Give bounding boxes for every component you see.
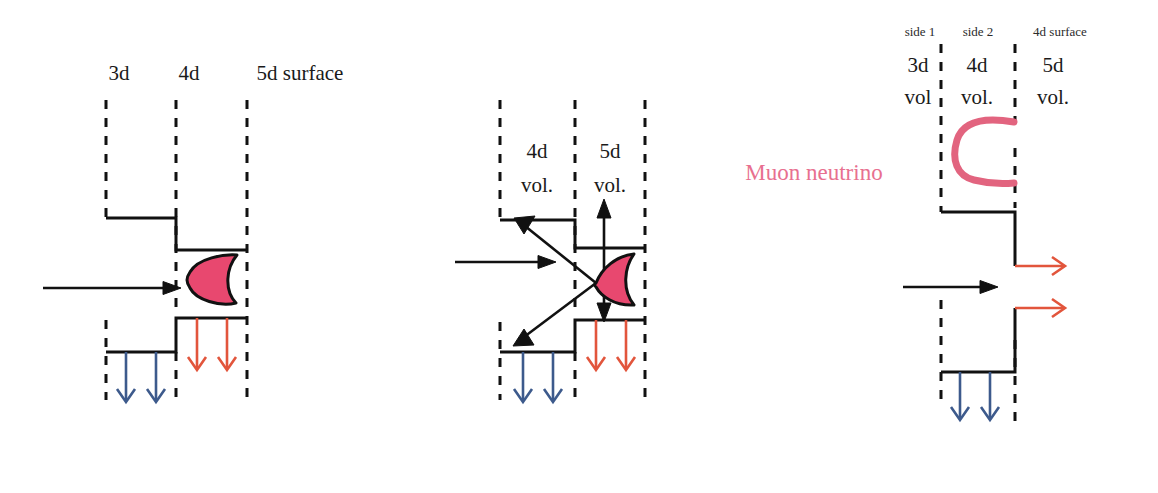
panel-middle-scatter-arrow-down-left xyxy=(513,283,596,346)
panel-middle-label-4d-line1: 4d xyxy=(527,139,549,163)
panel-middle-red-arrows xyxy=(587,320,635,370)
panel-right-label-4d-line2: vol. xyxy=(961,85,993,109)
panel-right-header-4d-surface: 4d surface xyxy=(1033,24,1087,39)
panel-right-incoming-arrow xyxy=(903,281,998,294)
panel-middle-interaction-blob xyxy=(595,254,635,305)
panel-left-red-arrows xyxy=(188,318,236,370)
panel-right-label-5d-line1: 5d xyxy=(1043,53,1065,77)
panel-middle: 4d vol. 5d vol. xyxy=(455,100,645,402)
panel-middle-label-4d-line2: vol. xyxy=(521,173,553,197)
panel-right-upper-step xyxy=(941,212,1015,266)
panel-middle-blue-arrows xyxy=(514,352,562,402)
panel-left-upper-step xyxy=(106,218,247,250)
figure-canvas: 3d 4d 5d surface xyxy=(0,0,1158,493)
panel-left-header-4d: 4d xyxy=(179,61,201,85)
panel-right-red-arrows xyxy=(1015,257,1065,317)
panel-middle-label-5d-line1: 5d xyxy=(600,139,622,163)
panel-right-header-side-2: side 2 xyxy=(963,24,994,39)
panel-right-pink-c-curve xyxy=(955,120,1014,184)
panel-middle-label-5d-line2: vol. xyxy=(594,173,626,197)
panel-left-header-3d: 3d xyxy=(109,61,131,85)
panel-left-header-5d-surface: 5d surface xyxy=(257,61,344,85)
panel-right-label-3d-line1: 3d xyxy=(908,53,930,77)
panel-right-label-4d-line1: 4d xyxy=(967,53,989,77)
figure-root: 3d 4d 5d surface xyxy=(0,0,1158,493)
muon-neutrino-annotation: Muon neutrino xyxy=(745,160,882,185)
panel-right-header-side-1: side 1 xyxy=(905,24,936,39)
panel-middle-incoming-arrow xyxy=(455,256,556,269)
panel-left-interaction-blob xyxy=(187,255,237,304)
panel-right-label-5d-line2: vol. xyxy=(1037,85,1069,109)
panel-right-lower-step xyxy=(941,308,1015,372)
panel-left-blue-arrows xyxy=(117,352,165,402)
panel-right: side 1 side 2 4d surface 3d vol 4d vol. … xyxy=(903,24,1087,430)
panel-right-label-3d-line2: vol xyxy=(905,85,932,109)
panel-right-blue-arrows xyxy=(951,372,999,420)
panel-left-incoming-arrow xyxy=(43,282,181,295)
panel-left: 3d 4d 5d surface xyxy=(43,61,343,402)
